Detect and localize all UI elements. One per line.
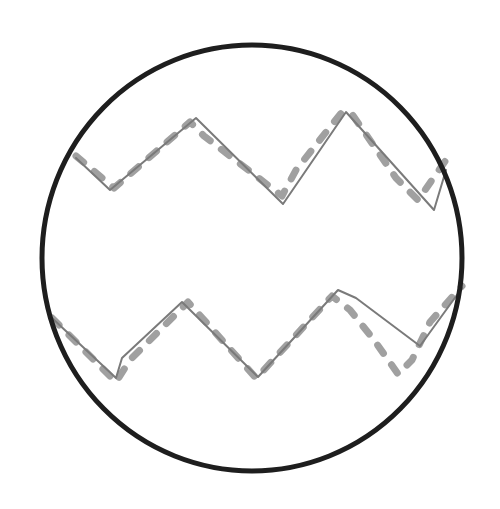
sketch-canvas [0,0,500,509]
background [0,0,500,509]
sketch-svg [0,0,500,509]
